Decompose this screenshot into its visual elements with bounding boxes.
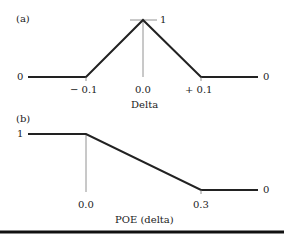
panel-b-xlabel: POE (delta) — [115, 214, 174, 226]
panel-a-tick-label-zero: 0.0 — [135, 84, 151, 96]
panel-a-right-label: 0 — [263, 71, 269, 83]
panel-b-poe-curve — [28, 134, 258, 190]
panel-b-tick-label-03: 0.3 — [193, 199, 209, 211]
panel-b-right-label: 0 — [263, 184, 269, 196]
panel-a-xlabel: Delta — [131, 99, 158, 111]
panel-a-peak-label: 1 — [160, 14, 166, 26]
panel-b-tag: (b) — [16, 113, 30, 125]
panel-b-tick-label-zero: 0.0 — [78, 199, 94, 211]
panel-b-plot — [28, 134, 258, 194]
panel-a-plot — [28, 20, 258, 81]
panel-a-tag: (a) — [16, 13, 30, 25]
panel-a-tick-label-plus: + 0.1 — [185, 84, 212, 96]
panel-a-tick-label-minus: − 0.1 — [70, 84, 97, 96]
panel-b-left-label: 1 — [17, 128, 23, 140]
diagram-canvas — [0, 0, 284, 235]
panel-a-left-label: 0 — [17, 71, 23, 83]
